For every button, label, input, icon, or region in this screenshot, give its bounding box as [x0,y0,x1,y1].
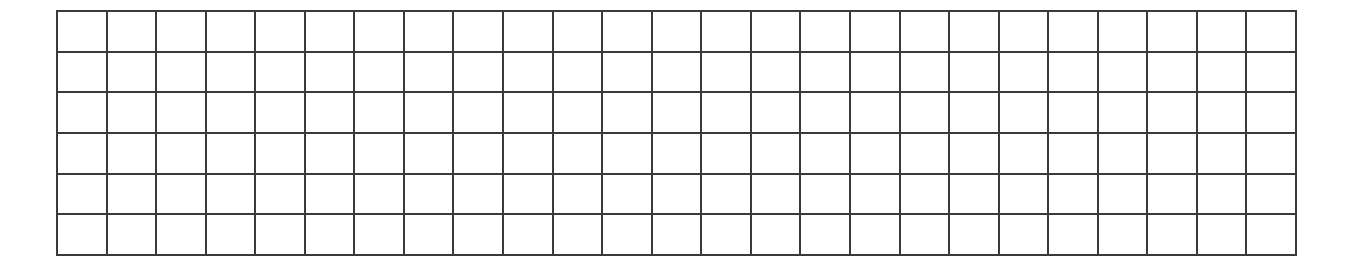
grid-cell [603,175,653,216]
grid-cell [1198,93,1248,134]
grid-cell [1198,134,1248,175]
grid-cell [603,12,653,53]
grid-cell [1247,215,1297,256]
grid-cell [752,134,802,175]
grid-cell [405,93,455,134]
grid-cell [454,175,504,216]
grid-cell [355,93,405,134]
grid-cell [108,12,158,53]
grid-cell [801,53,851,94]
grid-cell [1247,53,1297,94]
grid-cell [108,134,158,175]
grid-cell [1148,12,1198,53]
grid-cell [157,215,207,256]
grid-cell [454,134,504,175]
grid-cell [603,215,653,256]
grid-cell [752,12,802,53]
grid-cell [901,12,951,53]
grid-cell [355,53,405,94]
grid-cell [1099,12,1149,53]
grid-cell [653,12,703,53]
grid-cell [702,12,752,53]
grid-cell [1049,175,1099,216]
grid-cell [157,134,207,175]
grid-cell [653,175,703,216]
grid-cell [1247,93,1297,134]
grid-cell [454,12,504,53]
grid-cell [950,134,1000,175]
grid-cell [1049,12,1099,53]
grid-cell [256,175,306,216]
grid-cell [851,53,901,94]
grid-cell [901,175,951,216]
grid-cell [256,93,306,134]
grid-cell [1247,12,1297,53]
grid-cell [554,53,604,94]
grid-cell [702,215,752,256]
grid-cell [554,215,604,256]
grid-cell [653,134,703,175]
grid-cell [851,93,901,134]
grid-cell [1000,12,1050,53]
grid-cell [1000,53,1050,94]
grid-cell [306,134,356,175]
grid-cell [752,215,802,256]
grid-cell [1049,53,1099,94]
grid-cell [702,53,752,94]
grid-cell [801,12,851,53]
grid-cell [306,12,356,53]
grid-cell [1049,93,1099,134]
grid-cell [108,175,158,216]
grid-cell [752,175,802,216]
grid-cell [405,12,455,53]
grid-cell [355,12,405,53]
grid-cell [950,53,1000,94]
grid-cell [306,175,356,216]
grid-cell [1000,134,1050,175]
grid-cell [157,12,207,53]
grid-cell [554,175,604,216]
grid-cell [1049,215,1099,256]
grid-cell [554,93,604,134]
grid-cell [1049,134,1099,175]
grid-cell [405,175,455,216]
grid-cell [554,134,604,175]
grid-cell [1198,175,1248,216]
grid-cell [108,93,158,134]
grid-cell [207,12,257,53]
grid-cell [851,12,901,53]
grid-cell [851,215,901,256]
grid-cell [256,134,306,175]
grid-cell [207,53,257,94]
grid-cell [653,215,703,256]
grid-cell [1099,134,1149,175]
grid-cell [504,93,554,134]
grid-cell [801,93,851,134]
grid-cell [801,215,851,256]
grid-cell [355,175,405,216]
grid-cell [901,53,951,94]
grid-cell [58,134,108,175]
grid-cell [58,93,108,134]
grid-cell [405,53,455,94]
grid-cell [256,12,306,53]
grid-cell [504,175,554,216]
grid-cell [207,215,257,256]
grid-cell [306,53,356,94]
grid-cell [901,215,951,256]
grid-cell [108,215,158,256]
grid-cell [207,134,257,175]
grid-cell [504,12,554,53]
grid-cell [950,93,1000,134]
grid-cell [256,53,306,94]
grid-cell [207,175,257,216]
grid-cell [1148,215,1198,256]
grid-cell [752,53,802,94]
grid-cell [405,215,455,256]
grid-cell [801,175,851,216]
grid-cell [306,215,356,256]
grid-cell [58,12,108,53]
grid-cell [1099,93,1149,134]
grid-cell [653,93,703,134]
grid-cell [1148,53,1198,94]
